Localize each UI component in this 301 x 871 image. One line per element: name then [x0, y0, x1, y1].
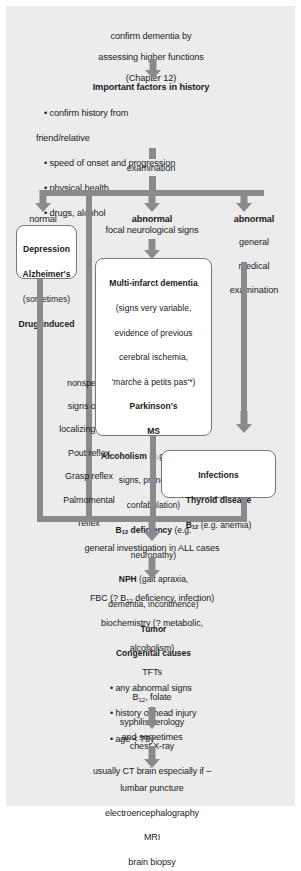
- branch-merge-bar: [37, 516, 247, 522]
- connector-focal-to-merge: [150, 436, 156, 516]
- focal-causes-box: Multi-infarct dementia (signs very varia…: [95, 258, 212, 436]
- focal-entry-alcoholism-bold: Alcoholism: [101, 451, 147, 461]
- normal-cause-1: Alzheimer's: [17, 268, 76, 280]
- history-heading: Important factors in history: [28, 82, 274, 93]
- branch-general-line-2: examination: [210, 285, 298, 297]
- focal-detail-0: (signs very variable,: [96, 302, 211, 314]
- branch-focal-sublabel: focal neurological signs: [92, 225, 212, 236]
- connector-history-to-examination: [149, 148, 156, 159]
- arrow-to-normal-branch: [34, 190, 52, 212]
- focal-entry-parkinsons: Parkinson's: [96, 400, 211, 412]
- general-causes-text: Infections Thyroid disease B12 (e.g. ane…: [162, 457, 275, 545]
- arrow-to-general-branch: [235, 190, 253, 212]
- normal-cause-0: Depression: [17, 243, 76, 255]
- branch-general-sublabel: general medical examination: [210, 225, 298, 309]
- arrow-to-investigations: [143, 557, 161, 579]
- arrow-start-to-history: [144, 59, 162, 79]
- general-cause-thyroid: Thyroid disease: [162, 494, 275, 506]
- normal-cause-2: (sometimes): [17, 293, 76, 305]
- general-investigation-label: general investigation in ALL cases: [34, 543, 270, 554]
- arrow-merge-to-general-investigation: [143, 516, 161, 541]
- arrow-to-and-sometimes: [143, 707, 161, 729]
- further-test-2: MRI: [47, 831, 257, 843]
- and-sometimes-label: and sometimes: [67, 732, 237, 743]
- investigation-bullet-1: • history of head injury: [110, 707, 270, 720]
- branch-general-line-0: general: [210, 237, 298, 249]
- connector-general-to-merge: [241, 498, 247, 516]
- normal-causes-box: Depression Alzheimer's (sometimes) Drug-…: [16, 225, 77, 279]
- arrow-focal-to-box: [143, 239, 161, 259]
- branch-focal-label: abnormal: [102, 214, 202, 225]
- history-bullet-0: • confirm history from: [44, 107, 264, 119]
- normal-causes-text: Depression Alzheimer's (sometimes) Drug-…: [17, 231, 76, 343]
- connector-normal-to-merge: [37, 279, 43, 516]
- focal-detail-3: 'marche à petits pas'*): [96, 376, 211, 388]
- investigations-bullets: • any abnormal signs • history of head i…: [110, 669, 270, 758]
- connector-general-long: [241, 262, 247, 417]
- branch-general-label: abnormal: [212, 214, 296, 225]
- further-test-0: lumbar puncture: [47, 782, 257, 794]
- focal-heading: Multi-infarct dementia: [96, 277, 211, 289]
- further-test-1: electroencephalography: [47, 807, 257, 819]
- normal-cause-3: Drug-induced: [17, 318, 76, 330]
- focal-detail-2: cerebral ischemia,: [96, 351, 211, 363]
- arrow-general-to-box: [235, 411, 253, 433]
- connector-examination-to-bar: [149, 176, 156, 190]
- branch-normal-label: normal: [14, 214, 72, 225]
- focal-detail-1: evidence of previous: [96, 327, 211, 339]
- branch-general-line-1: medical: [210, 261, 298, 273]
- history-bullet-0-cont: friend/relative: [36, 132, 264, 144]
- general-cause-infections: Infections: [162, 469, 275, 481]
- investigation-bullet-0: • any abnormal signs: [110, 682, 270, 695]
- investigation-biochemistry: biochemistry (? metabolic,: [32, 617, 272, 629]
- diagram-panel: confirm dementia by assessing higher fun…: [6, 6, 295, 806]
- further-tests-list: lumbar puncture electroencephalography M…: [47, 770, 257, 871]
- investigation-biochemistry-cont: alcoholism): [32, 642, 272, 654]
- further-test-3: brain biopsy: [47, 856, 257, 868]
- start-line-1: confirm dementia by: [44, 31, 258, 42]
- general-causes-box: Infections Thyroid disease B12 (e.g. ane…: [161, 450, 276, 498]
- arrow-to-focal-branch: [143, 190, 161, 212]
- arrow-to-further-tests: [143, 746, 161, 768]
- investigation-fbc: FBC (? B12 deficiency, infection): [32, 592, 272, 605]
- examination-label: examination: [64, 163, 238, 174]
